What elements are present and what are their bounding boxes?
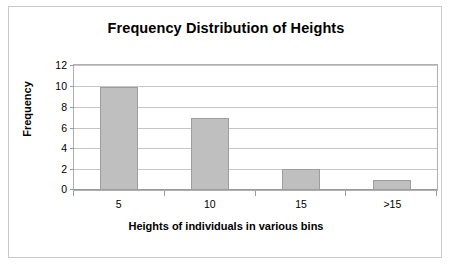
- x-axis-tick: [436, 191, 437, 196]
- x-axis-title: Heights of individuals in various bins: [9, 220, 443, 232]
- bar-slot: [165, 65, 256, 190]
- chart-title: Frequency Distribution of Heights: [9, 20, 443, 36]
- y-axis-tick-label: 6: [40, 123, 67, 133]
- x-axis-tick-label: 10: [164, 198, 255, 210]
- x-axis-tick-label: >15: [347, 198, 438, 210]
- bar[interactable]: [282, 169, 320, 190]
- x-axis-tick: [164, 191, 165, 196]
- x-axis-ticks-group: [73, 191, 438, 196]
- x-axis-tick: [73, 191, 74, 196]
- chart-frame: Frequency Distribution of Heights Freque…: [8, 6, 442, 258]
- x-axis-tick-labels: 51015>15: [73, 198, 438, 210]
- y-axis-tick-label: 4: [40, 143, 67, 153]
- y-axis-tick-label: 2: [40, 164, 67, 174]
- x-axis-tick: [255, 191, 256, 196]
- x-axis-tick-label: 15: [256, 198, 347, 210]
- bar-slot: [346, 65, 437, 190]
- x-axis-tick-label: 5: [73, 198, 164, 210]
- bar[interactable]: [373, 180, 411, 190]
- y-axis-tick-label: 0: [40, 184, 67, 194]
- bar[interactable]: [100, 87, 138, 190]
- plot-area: 024681012: [73, 64, 438, 191]
- y-axis-tick-label: 10: [40, 81, 67, 91]
- bar-slot: [256, 65, 347, 190]
- x-axis-tick: [345, 191, 346, 196]
- y-axis-tick-label: 12: [40, 60, 67, 70]
- y-axis-title: Frequency: [21, 69, 33, 149]
- y-axis-tick-label: 8: [40, 102, 67, 112]
- bars-group: [74, 65, 437, 190]
- bar-slot: [74, 65, 165, 190]
- bar[interactable]: [191, 118, 229, 190]
